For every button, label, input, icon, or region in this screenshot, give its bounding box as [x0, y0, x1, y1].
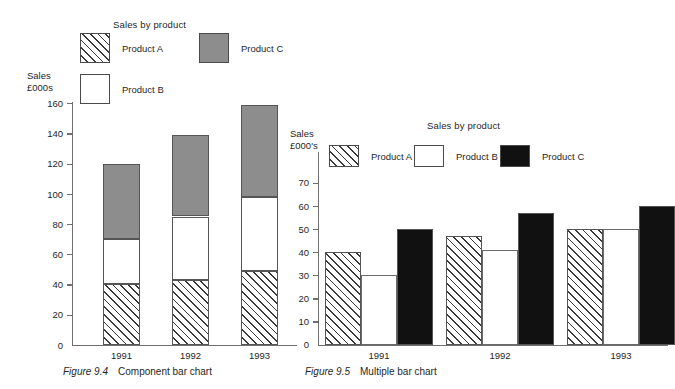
y-tick-100-left: [67, 194, 72, 195]
y-axis-title-left-line1: Sales: [27, 70, 53, 82]
x-tick-label-1992-right: 1992: [475, 350, 525, 361]
legend-item-product-b-left: Product B: [80, 74, 164, 104]
bar-1993-product-b-right: [603, 229, 639, 345]
legend-label-product-a-right: Product A: [371, 151, 412, 162]
caption-figure-9-4-number: Figure 9.4: [63, 366, 108, 377]
bar-1991-product-c-right: [397, 229, 433, 345]
bar-1991-product-b-left: [103, 239, 140, 284]
y-axis-title-right-line1: Sales: [290, 128, 318, 140]
y-tick-label-60-right: 60: [285, 201, 309, 212]
y-tick-40-left: [67, 284, 72, 285]
x-axis-line-left: [72, 345, 297, 346]
bar-1992-product-a-right: [446, 236, 482, 345]
legend-item-product-c-left: Product C: [199, 33, 283, 63]
y-tick-label-120-left: 120: [22, 158, 63, 169]
y-axis-title-right-line2: £000's: [290, 140, 318, 152]
legend-item-product-a-right: Product A: [329, 145, 412, 167]
y-tick-20-left: [67, 315, 72, 316]
y-axis-title-left: Sales £000s: [27, 70, 53, 93]
legend-swatch-product-a-left: [80, 33, 110, 63]
figure-multiple-bar-chart: Sales by product Product A Product B Pro…: [285, 0, 675, 389]
legend-label-product-b-right: Product B: [456, 151, 498, 162]
bar-1993-product-c-right: [639, 206, 675, 345]
legend-swatch-product-c-right: [500, 145, 530, 167]
y-tick-label-80-left: 80: [22, 219, 63, 230]
y-tick-10-right: [313, 321, 318, 322]
y-tick-label-50-right: 50: [285, 224, 309, 235]
caption-figure-9-5: Figure 9.5Multiple bar chart: [305, 366, 437, 377]
y-tick-label-160-left: 160: [22, 98, 63, 109]
y-tick-50-right: [313, 229, 318, 230]
x-tick-label-1991-left: 1991: [97, 350, 147, 361]
caption-figure-9-4-text: Component bar chart: [118, 366, 212, 377]
bar-1991-product-c-left: [103, 164, 140, 240]
x-tick-label-1993-left: 1993: [235, 350, 285, 361]
caption-figure-9-5-number: Figure 9.5: [305, 366, 350, 377]
legend-swatch-product-a-right: [329, 145, 359, 167]
bar-1993-product-b-left: [241, 197, 278, 271]
y-tick-label-40-right: 40: [285, 247, 309, 258]
y-tick-80-left: [67, 224, 72, 225]
y-tick-label-70-right: 70: [285, 177, 309, 188]
legend-swatch-product-c-left: [199, 33, 229, 63]
bar-1991-product-a-left: [103, 284, 140, 344]
y-axis-line-right: [318, 152, 319, 345]
y-tick-70-right: [313, 183, 318, 184]
y-tick-140-left: [67, 133, 72, 134]
y-tick-label-60-left: 60: [22, 249, 63, 260]
figure-component-bar-chart: Sales by product Product A Product C Pro…: [0, 0, 300, 389]
y-axis-title-right: Sales £000's: [290, 128, 318, 151]
legend-label-product-c-left: Product C: [241, 43, 283, 54]
bar-1992-product-c-left: [172, 135, 209, 217]
x-tick-label-1991-right: 1991: [354, 350, 404, 361]
y-axis-line-left: [72, 102, 73, 346]
legend-swatch-product-b-left: [80, 74, 110, 104]
legend-item-product-c-right: Product C: [500, 145, 584, 167]
y-tick-60-right: [313, 206, 318, 207]
bar-1992-product-b-left: [172, 217, 209, 280]
legend-label-product-c-right: Product C: [542, 151, 584, 162]
legend-item-product-b-right: Product B: [414, 145, 498, 167]
bar-1993-product-c-left: [241, 105, 278, 197]
y-tick-120-left: [67, 164, 72, 165]
y-tick-20-right: [313, 298, 318, 299]
y-tick-label-30-right: 30: [285, 270, 309, 281]
y-tick-label-20-right: 20: [285, 293, 309, 304]
bar-1993-product-a-left: [241, 271, 278, 345]
legend-swatch-product-b-right: [414, 145, 444, 167]
y-axis-title-left-line2: £000s: [27, 82, 53, 94]
legend-label-product-a-left: Product A: [122, 43, 163, 54]
y-tick-label-0-left: 0: [22, 340, 63, 351]
x-axis-line-right: [318, 345, 668, 346]
y-tick-60-left: [67, 254, 72, 255]
bar-1991-product-b-right: [361, 275, 397, 345]
bar-1992-product-c-right: [518, 213, 554, 345]
y-tick-30-right: [313, 275, 318, 276]
y-tick-label-0-right: 0: [285, 339, 309, 350]
y-tick-label-40-left: 40: [22, 279, 63, 290]
legend-label-product-b-left: Product B: [122, 84, 164, 95]
bar-1991-product-a-right: [325, 252, 361, 345]
bar-1992-product-b-right: [482, 250, 518, 345]
caption-figure-9-5-text: Multiple bar chart: [360, 366, 437, 377]
y-tick-40-right: [313, 252, 318, 253]
y-tick-label-140-left: 140: [22, 128, 63, 139]
chart-title-right: Sales by product: [427, 120, 500, 131]
y-tick-label-20-left: 20: [22, 309, 63, 320]
legend-item-product-a-left: Product A: [80, 33, 163, 63]
x-tick-label-1992-left: 1992: [166, 350, 216, 361]
x-tick-label-1993-right: 1993: [596, 350, 646, 361]
y-tick-label-100-left: 100: [22, 189, 63, 200]
y-tick-label-10-right: 10: [285, 316, 309, 327]
bar-1992-product-a-left: [172, 280, 209, 345]
caption-figure-9-4: Figure 9.4Component bar chart: [63, 366, 212, 377]
bar-1993-product-a-right: [567, 229, 603, 345]
y-tick-160-left: [67, 103, 72, 104]
chart-title-left: Sales by product: [113, 19, 186, 30]
